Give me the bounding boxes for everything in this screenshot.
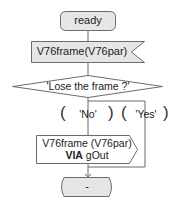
answer-yes-label[interactable]: 'Yes' <box>131 109 161 120</box>
answer-no-label[interactable]: 'No' <box>72 109 104 120</box>
answer-yes-open-paren: ( <box>121 104 127 121</box>
output-signal-label: V76frame (V76par) <box>38 138 136 149</box>
answer-no-close-paren: ) <box>108 104 114 121</box>
output-via-target: gOut <box>86 149 109 161</box>
answer-yes-close-paren: ) <box>163 104 169 121</box>
output-via-line: VIA gOut <box>38 150 136 161</box>
state-ready-label: ready <box>60 15 116 26</box>
input-signal-label: V76frame(V76par) <box>31 46 133 57</box>
answer-no-open-paren: ( <box>60 104 66 121</box>
state-next-label: - <box>60 181 114 192</box>
output-via-keyword: VIA <box>65 149 83 161</box>
flowchart-canvas <box>0 0 176 210</box>
decision-label: 'Lose the frame ?' <box>30 81 146 92</box>
